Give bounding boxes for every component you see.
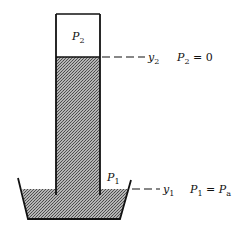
p2-equation: P2 = 0 — [176, 51, 213, 66]
p1-equation: P1 = Pa — [189, 183, 231, 198]
surface-pressure-label: P1 — [106, 171, 120, 186]
barometer-diagram: P2 y2 P2 = 0 P1 y1 P1 = Pa — [0, 0, 237, 233]
vacuum-pressure-label: P2 — [71, 30, 85, 45]
tube-fluid-column — [56, 57, 100, 195]
y1-label: y1 — [162, 183, 174, 198]
y2-label: y2 — [147, 51, 159, 66]
